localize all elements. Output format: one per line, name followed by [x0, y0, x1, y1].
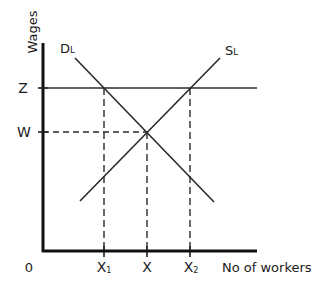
demand-curve-dl [75, 58, 214, 202]
w-label: W [17, 124, 31, 140]
x1-label: X1 [97, 259, 112, 275]
labour-market-diagram: Wages Z W 0 X1 X X2 No of workers DL SL [0, 0, 316, 284]
y-axis-label: Wages [25, 10, 40, 53]
origin-label: 0 [25, 260, 33, 275]
demand-curve-label: DL [60, 41, 75, 56]
x-label: X [142, 259, 152, 275]
x-axis-label: No of workers [222, 260, 312, 275]
supply-curve-sl [80, 58, 220, 201]
supply-curve-label: SL [225, 43, 238, 58]
z-label: Z [18, 80, 28, 96]
x2-label: X2 [184, 259, 199, 275]
